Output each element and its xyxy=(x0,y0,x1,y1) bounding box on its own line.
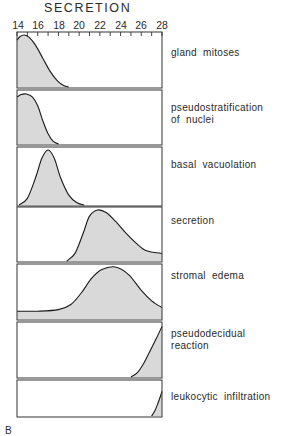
row-label-secretion: secretion xyxy=(171,215,214,227)
row-label-line: of nuclei xyxy=(171,114,263,126)
row-label-line: stromal edema xyxy=(171,270,244,282)
chart-panels xyxy=(17,32,162,417)
row-label-pseudostratification: pseudostratification of nuclei xyxy=(171,102,263,126)
panel-pseudodecidual-reaction xyxy=(17,322,162,378)
figure-panel-letter: B xyxy=(5,425,12,436)
panel-stromal-edema xyxy=(17,264,162,320)
row-label-stromal-edema: stromal edema xyxy=(171,270,244,282)
panel-gland-mitoses xyxy=(17,32,162,88)
row-label-leukocytic-infiltration: leukocytic infiltration xyxy=(171,391,270,403)
row-label-line: basal vacuolation xyxy=(171,159,256,171)
row-label-gland-mitoses: gland mitoses xyxy=(171,47,240,59)
panel-pseudostratification-of-nuclei xyxy=(17,90,162,145)
row-label-basal-vacuolation: basal vacuolation xyxy=(171,159,256,171)
x-axis-ticks xyxy=(17,32,162,36)
row-label-line: leukocytic infiltration xyxy=(171,391,270,403)
panel-basal-vacuolation xyxy=(17,147,162,206)
panel-secretion xyxy=(17,207,162,262)
panel-leukocytic-infiltration xyxy=(17,380,162,417)
row-label-pseudodecidual: pseudodecidual reaction xyxy=(171,328,245,352)
row-label-line: secretion xyxy=(171,215,214,227)
row-label-line: pseudodecidual xyxy=(171,328,245,340)
row-label-line: reaction xyxy=(171,340,245,352)
row-label-line: pseudostratification xyxy=(171,102,263,114)
row-label-line: gland mitoses xyxy=(171,47,240,59)
chart-plot-area xyxy=(0,0,291,436)
